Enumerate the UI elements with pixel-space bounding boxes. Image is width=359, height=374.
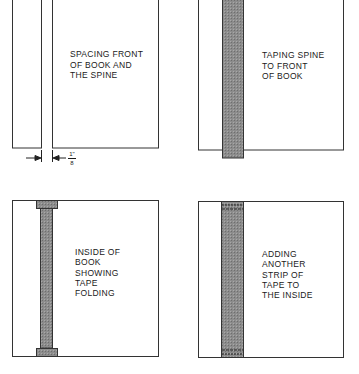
tape-strip — [223, 0, 244, 158]
dimension-fraction: 1" 8 — [68, 151, 76, 166]
fraction-numerator: 1" — [69, 151, 74, 157]
panel-spacing — [13, 0, 159, 162]
caption-adding: ADDING ANOTHER STRIP OF TAPE TO THE INSI… — [262, 249, 313, 300]
gap-dimension-arrows — [26, 150, 66, 162]
caption-inside: INSIDE OF BOOK SHOWING TAPE FOLDING — [75, 247, 120, 298]
fraction-denominator: 8 — [70, 160, 73, 166]
caption-spacing: SPACING FRONT OF BOOK AND THE SPINE — [70, 49, 143, 81]
tape-fold-bottom — [37, 349, 58, 357]
tape-fold-top — [37, 201, 58, 209]
fraction-bar — [68, 158, 76, 159]
tape-strip — [41, 208, 53, 348]
caption-taping: TAPING SPINE TO FRONT OF BOOK — [262, 50, 324, 82]
tape-strip — [222, 202, 244, 358]
spine-board — [13, 0, 42, 148]
